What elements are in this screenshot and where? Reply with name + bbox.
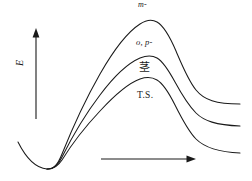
x-axis-arrow <box>101 156 196 163</box>
energy-profile-plot <box>0 0 252 181</box>
y-axis-label: E <box>15 60 25 66</box>
curve-label-inner: 茎 <box>139 62 150 73</box>
right-arrow-icon <box>187 156 197 163</box>
y-axis-arrow <box>33 28 40 119</box>
curve-label-ts: T.S. <box>137 91 153 101</box>
curve-label-m: m- <box>138 1 147 9</box>
curve-label-op: o, p- <box>136 38 153 47</box>
energy-diagram-figure: m- o, p- 茎 T.S. E <box>0 0 252 181</box>
up-arrow-icon <box>33 28 40 38</box>
